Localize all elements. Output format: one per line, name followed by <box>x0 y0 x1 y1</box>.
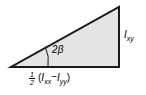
base-label: 1 2 (Ixx−Iyy) <box>29 71 70 86</box>
angle-label: 2β <box>52 45 64 55</box>
triangle-shape <box>11 7 119 67</box>
close-paren: ) <box>67 72 70 83</box>
minus-operator: − <box>51 71 57 82</box>
term2-subscript: yy <box>60 78 67 85</box>
one-half-fraction: 1 2 <box>29 71 35 86</box>
vertical-side-subscript: xy <box>127 35 134 42</box>
figure-container: 2β Ixy 1 2 (Ixx−Iyy) <box>0 0 146 95</box>
base-expression: (Ixx−Iyy) <box>38 72 70 85</box>
vertical-side-label: Ixy <box>124 30 134 42</box>
fraction-numerator: 1 <box>29 71 35 78</box>
triangle-diagram <box>0 0 146 95</box>
fraction-denominator: 2 <box>29 79 35 86</box>
